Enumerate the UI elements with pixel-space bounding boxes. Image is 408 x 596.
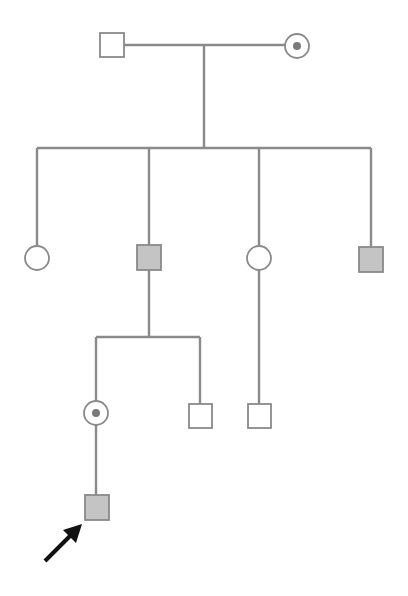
proband-arrow-icon <box>45 534 72 561</box>
male-unaffected-III-3 <box>248 404 271 428</box>
pedigree-diagram <box>0 0 408 596</box>
male-affected-II-4 <box>359 247 383 272</box>
male-unaffected-I-1 <box>100 33 124 57</box>
carrier-dot-icon <box>293 42 301 50</box>
male-affected-proband-IV-1 <box>85 495 109 520</box>
male-unaffected-III-2 <box>189 404 212 428</box>
female-unaffected-II-1 <box>25 246 49 270</box>
female-unaffected-II-3 <box>247 246 271 270</box>
carrier-dot-icon <box>92 409 100 417</box>
male-affected-II-2 <box>137 245 161 270</box>
